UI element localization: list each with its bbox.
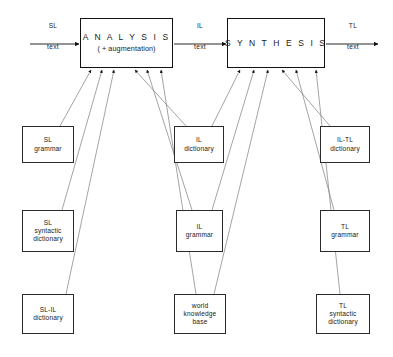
resource-label-line: knowledge — [184, 310, 217, 318]
resource-label-line: SL-IL — [40, 306, 57, 314]
mt-architecture-diagram: A N A L Y S I S ( + augmentation) S Y N … — [0, 0, 393, 357]
resource-edge-group — [60, 70, 340, 294]
edge-tl-syntactic-dictionary-to-synthesis — [316, 70, 340, 294]
resource-label-line: dictionary — [33, 314, 63, 322]
edge-il-dictionary-to-analysis — [135, 70, 186, 126]
resource-label-line: IL — [196, 136, 202, 144]
resource-node-sl-grammar[interactable]: SLgrammar — [22, 126, 74, 163]
resource-label-line: dictionary — [33, 235, 63, 243]
resource-label-line: IL — [197, 223, 203, 231]
resource-label-line: IL-TL — [337, 136, 353, 144]
flow-label-il-middle-top: IL — [176, 22, 224, 29]
flow-label-sl-input-bottom: text — [28, 43, 78, 50]
process-node-synthesis[interactable]: S Y N T H E S I S — [227, 18, 325, 68]
resource-label-line: SL — [44, 136, 52, 144]
resource-node-il-tl-dictionary[interactable]: IL-TLdictionary — [320, 126, 370, 163]
resource-node-sl-syntactic-dictionary[interactable]: SLsyntacticdictionary — [22, 210, 74, 252]
resource-label-line: grammar — [34, 145, 61, 153]
flow-label-sl-input: SL text — [28, 22, 78, 50]
process-node-analysis[interactable]: A N A L Y S I S ( + augmentation) — [80, 18, 173, 68]
resource-label-line: TL — [341, 223, 349, 231]
analysis-title: A N A L Y S I S — [83, 32, 171, 42]
resource-label-line: SL — [44, 219, 52, 227]
flow-label-tl-output-bottom: text — [330, 43, 376, 50]
resource-label-line: dictionary — [330, 145, 360, 153]
resource-node-il-grammar[interactable]: ILgrammar — [176, 210, 223, 252]
synthesis-title: S Y N T H E S I S — [225, 38, 327, 48]
resource-label-line: grammar — [186, 231, 213, 239]
edge-il-dictionary-to-synthesis — [212, 70, 240, 126]
resource-label-line: syntactic — [34, 227, 61, 235]
flow-label-tl-output: TL text — [330, 22, 376, 50]
flow-label-il-middle: IL text — [176, 22, 224, 50]
edge-sl-il-dictionary-to-analysis — [66, 70, 114, 294]
resource-node-tl-grammar[interactable]: TLgrammar — [320, 210, 370, 252]
edge-world-knowledge-base-to-synthesis — [214, 70, 268, 294]
flow-label-il-middle-bottom: text — [176, 43, 224, 50]
edge-world-knowledge-base-to-analysis — [161, 70, 196, 294]
resource-label-line: syntactic — [329, 310, 356, 318]
resource-node-sl-il-dictionary[interactable]: SL-ILdictionary — [22, 294, 74, 334]
resource-node-world-knowledge-base[interactable]: worldknowledgebase — [174, 294, 226, 334]
flow-label-tl-output-top: TL — [330, 22, 376, 29]
analysis-subtitle: ( + augmentation) — [97, 45, 155, 54]
flow-label-sl-input-top: SL — [28, 22, 78, 29]
resource-label-line: grammar — [331, 231, 358, 239]
resource-label-line: TL — [339, 302, 347, 310]
resource-label-line: dictionary — [184, 145, 214, 153]
resource-node-tl-syntactic-dictionary[interactable]: TLsyntacticdictionary — [316, 294, 370, 334]
edge-sl-grammar-to-analysis — [60, 70, 91, 126]
resource-label-line: base — [193, 318, 208, 326]
resource-label-line: dictionary — [328, 318, 358, 326]
edge-il-tl-dictionary-to-synthesis — [282, 70, 330, 126]
resource-label-line: world — [192, 302, 209, 310]
resource-node-il-dictionary[interactable]: ILdictionary — [174, 126, 224, 163]
